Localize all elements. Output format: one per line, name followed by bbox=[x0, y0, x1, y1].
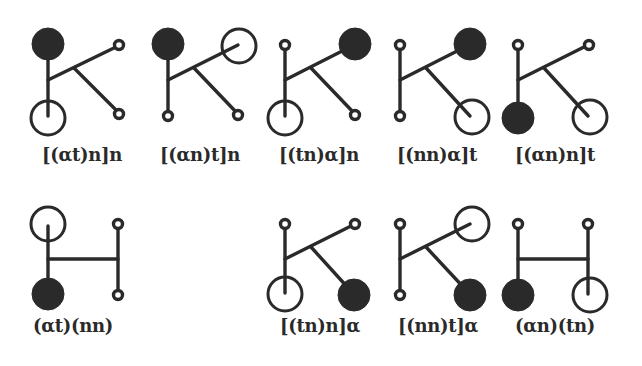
open-node-icon bbox=[573, 100, 607, 134]
small-node-icon bbox=[281, 220, 290, 229]
diagram-2 bbox=[152, 28, 256, 121]
filled-node-icon bbox=[338, 279, 370, 311]
small-node-icon bbox=[396, 41, 405, 50]
diagram-9-label: (αn)(tn) bbox=[515, 317, 595, 335]
diagram-3-label: [(tn)α]n bbox=[279, 146, 359, 164]
small-node-icon bbox=[585, 41, 594, 50]
small-node-icon bbox=[234, 111, 243, 120]
coupling-scheme-figure: [(αt)n]n [(αn)t]n [(tn)α]n [(nn)α]t [(αn… bbox=[0, 0, 642, 366]
filled-node-icon bbox=[339, 28, 371, 60]
filled-node-icon bbox=[32, 278, 64, 310]
diagram-9 bbox=[502, 220, 607, 313]
diagram-canvas bbox=[0, 0, 642, 366]
diagram-2-label: [(αn)t]n bbox=[160, 146, 240, 164]
small-node-icon bbox=[396, 112, 405, 121]
small-node-icon bbox=[396, 291, 405, 300]
small-node-icon bbox=[584, 220, 593, 229]
diagram-7-label: [(tn)n]α bbox=[280, 317, 360, 335]
filled-node-icon bbox=[454, 28, 486, 60]
small-node-icon bbox=[351, 220, 360, 229]
diagram-8 bbox=[396, 207, 490, 311]
small-node-icon bbox=[114, 220, 123, 229]
filled-node-icon bbox=[32, 28, 64, 60]
diagram-3 bbox=[268, 28, 371, 135]
filled-node-icon bbox=[502, 102, 534, 134]
small-node-icon bbox=[514, 41, 523, 50]
diagram-5-label: [(αn)n]t bbox=[515, 146, 595, 164]
diagram-1 bbox=[31, 28, 124, 135]
small-node-icon bbox=[114, 291, 123, 300]
filled-node-icon bbox=[152, 28, 184, 60]
open-node-icon bbox=[573, 278, 607, 312]
small-node-icon bbox=[281, 41, 290, 50]
open-node-icon bbox=[455, 100, 489, 134]
diagram-4-label: [(nn)α]t bbox=[397, 146, 477, 164]
small-node-icon bbox=[396, 220, 405, 229]
diagram-5 bbox=[502, 41, 607, 135]
diagram-8-label: [(nn)t]α bbox=[398, 317, 478, 335]
small-node-icon bbox=[115, 110, 124, 119]
diagram-7 bbox=[268, 220, 370, 312]
small-node-icon bbox=[514, 220, 523, 229]
small-node-icon bbox=[164, 112, 173, 121]
small-node-icon bbox=[115, 41, 124, 50]
filled-node-icon bbox=[454, 279, 486, 311]
diagram-6 bbox=[31, 207, 123, 310]
diagram-4 bbox=[396, 28, 490, 134]
open-node-icon bbox=[455, 207, 489, 241]
small-node-icon bbox=[351, 111, 360, 120]
filled-node-icon bbox=[502, 279, 534, 311]
diagram-1-label: [(αt)n]n bbox=[42, 146, 122, 164]
diagram-6-label: (αt)(nn) bbox=[33, 317, 113, 335]
